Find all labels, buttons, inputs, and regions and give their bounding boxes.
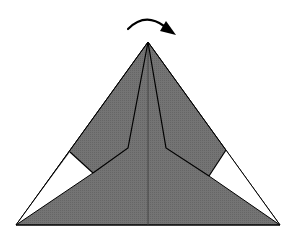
diagram-canvas <box>0 0 290 245</box>
turn-over-arrow-icon <box>128 20 176 35</box>
origami-diagram <box>0 0 290 245</box>
